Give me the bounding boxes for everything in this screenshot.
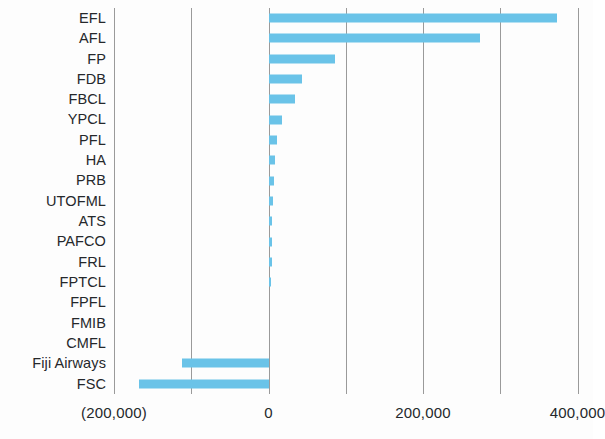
bar[interactable] bbox=[269, 54, 335, 63]
bar-row bbox=[114, 8, 593, 28]
bar[interactable] bbox=[269, 257, 272, 266]
category-label: UTOFML bbox=[0, 191, 114, 211]
category-label: FBCL bbox=[0, 89, 114, 109]
bar-row bbox=[114, 353, 593, 373]
bar-row bbox=[114, 89, 593, 109]
value-tick-label: 400,000 bbox=[550, 404, 605, 421]
category-label: EFL bbox=[0, 8, 114, 28]
category-label: FDB bbox=[0, 69, 114, 89]
value-tick-label: 0 bbox=[264, 404, 273, 421]
bar[interactable] bbox=[269, 278, 271, 287]
bar-row bbox=[114, 231, 593, 251]
bar-row bbox=[114, 374, 593, 394]
bar-row bbox=[114, 28, 593, 48]
value-tick-label: (200,000) bbox=[81, 404, 147, 421]
bar-row bbox=[114, 211, 593, 231]
plot-area bbox=[114, 8, 593, 394]
bar[interactable] bbox=[139, 379, 268, 388]
bars-layer bbox=[114, 8, 593, 394]
category-label: YPCL bbox=[0, 110, 114, 130]
bar-row bbox=[114, 333, 593, 353]
bar[interactable] bbox=[269, 75, 302, 84]
category-label: PRB bbox=[0, 171, 114, 191]
bar[interactable] bbox=[269, 237, 273, 246]
category-label: PAFCO bbox=[0, 231, 114, 251]
category-label: FMIB bbox=[0, 313, 114, 333]
category-label: FSC bbox=[0, 374, 114, 394]
bar-row bbox=[114, 292, 593, 312]
category-label: Fiji Airways bbox=[0, 353, 114, 373]
category-label: PFL bbox=[0, 130, 114, 150]
bar-row bbox=[114, 69, 593, 89]
bar[interactable] bbox=[269, 95, 295, 104]
bar-row bbox=[114, 130, 593, 150]
bar-row bbox=[114, 110, 593, 130]
category-label: FP bbox=[0, 49, 114, 69]
category-label: ATS bbox=[0, 211, 114, 231]
bar-row bbox=[114, 252, 593, 272]
category-label: FPTCL bbox=[0, 272, 114, 292]
bar[interactable] bbox=[182, 359, 269, 368]
bar[interactable] bbox=[269, 14, 557, 23]
bar-row bbox=[114, 191, 593, 211]
bar[interactable] bbox=[269, 136, 277, 145]
bar-row bbox=[114, 171, 593, 191]
category-label: AFL bbox=[0, 28, 114, 48]
bar[interactable] bbox=[269, 115, 283, 124]
value-tick-label: 200,000 bbox=[395, 404, 451, 421]
category-label: CMFL bbox=[0, 333, 114, 353]
bar[interactable] bbox=[269, 196, 274, 205]
value-axis: (200,000)0200,000400,000 bbox=[114, 398, 593, 438]
bar[interactable] bbox=[269, 217, 273, 226]
bar-row bbox=[114, 150, 593, 170]
category-axis: EFL AFL FP FDB FBCL YPCL PFL HA PRB UTOF… bbox=[0, 8, 114, 394]
bar[interactable] bbox=[269, 34, 481, 43]
bar-row bbox=[114, 272, 593, 292]
category-label: FRL bbox=[0, 252, 114, 272]
bar[interactable] bbox=[269, 176, 274, 185]
category-label: FPFL bbox=[0, 292, 114, 312]
category-label: HA bbox=[0, 150, 114, 170]
bar[interactable] bbox=[269, 156, 276, 165]
bar-row bbox=[114, 49, 593, 69]
bar-row bbox=[114, 313, 593, 333]
